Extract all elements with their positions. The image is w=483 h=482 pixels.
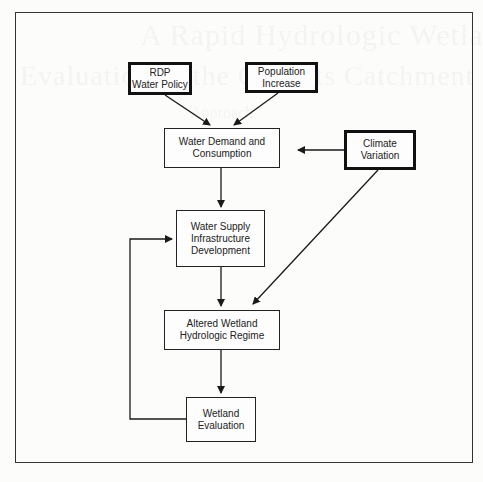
node-label: RDP Water Policy [132,67,188,91]
node-population-increase: Population Increase [245,62,318,93]
arrow-climate-to-altered [253,170,378,304]
arrow-rdp-to-demand [165,95,210,125]
node-label: Wetland Evaluation [198,408,245,432]
node-climate-variation: Climate Variation [344,130,416,170]
node-water-demand-consumption: Water Demand and Consumption [164,128,280,168]
node-label: Population Increase [258,66,305,90]
node-label: Altered Wetland Hydrologic Regime [180,318,264,342]
node-label: Climate Variation [361,138,400,162]
node-label: Water Supply Infrastructure Development [191,221,251,257]
node-water-supply-infrastructure: Water Supply Infrastructure Development [176,210,265,267]
node-rdp-water-policy: RDP Water Policy [128,62,192,95]
node-wetland-evaluation: Wetland Evaluation [186,397,256,442]
diagram-canvas: A Rapid Hydrologic Wetland Evaluation of… [0,0,483,482]
arrow-population-to-demand [234,93,278,125]
node-label: Water Demand and Consumption [179,136,265,160]
node-altered-wetland-hydrologic-regime: Altered Wetland Hydrologic Regime [164,310,280,350]
